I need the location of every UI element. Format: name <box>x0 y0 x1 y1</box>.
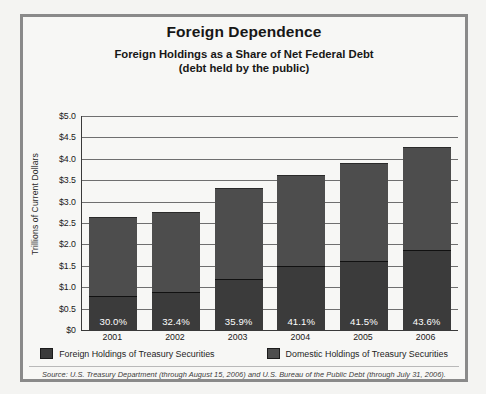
x-tick-label: 2004 <box>276 332 324 342</box>
plot-area: 30.0%32.4%35.9%41.1%41.5%43.6% <box>81 116 458 331</box>
bar-segment-foreign[interactable]: 43.6% <box>403 250 451 330</box>
y-tick-label: $2.5 <box>59 218 76 228</box>
x-tick-label: 2005 <box>339 332 387 342</box>
y-tick-label: $1.0 <box>59 282 76 292</box>
bar-column[interactable]: 41.1% <box>277 116 325 330</box>
bar-segment-foreign[interactable]: 32.4% <box>152 292 200 330</box>
bar-stack[interactable]: 43.6% <box>403 147 451 330</box>
x-tick-label: 2001 <box>88 332 136 342</box>
bar-stack[interactable]: 41.5% <box>340 163 388 330</box>
y-axis-ticks: $5.0$4.5$4.0$3.5$3.0$2.5$2.0$1.5$1.0$0.5… <box>39 83 79 303</box>
bar-segment-foreign[interactable]: 30.0% <box>89 296 137 330</box>
chart-legend: Foreign Holdings of Treasury SecuritiesD… <box>23 348 465 359</box>
bar-segment-foreign[interactable]: 41.1% <box>277 266 325 330</box>
x-tick-label: 2006 <box>402 332 450 342</box>
bar-stack[interactable]: 30.0% <box>89 217 137 330</box>
chart-page: Foreign Dependence Foreign Holdings as a… <box>0 0 486 394</box>
legend-item[interactable]: Domestic Holdings of Treasury Securities <box>267 348 448 359</box>
bar-data-label: 32.4% <box>152 316 200 327</box>
x-tick-label: 2003 <box>214 332 262 342</box>
legend-label: Foreign Holdings of Treasury Securities <box>59 349 214 359</box>
bar-segment-foreign[interactable]: 35.9% <box>215 279 263 330</box>
bar-data-label: 43.6% <box>403 316 451 327</box>
x-axis-ticks: 200120022003200420052006 <box>81 332 457 342</box>
bar-column[interactable]: 32.4% <box>152 116 200 330</box>
legend-label: Domestic Holdings of Treasury Securities <box>286 349 448 359</box>
bar-column[interactable]: 41.5% <box>340 116 388 330</box>
bar-data-label: 41.5% <box>340 316 388 327</box>
y-tick-label: $2.0 <box>59 239 76 249</box>
chart-title: Foreign Dependence <box>23 23 465 41</box>
legend-swatch <box>40 348 53 359</box>
bar-stack[interactable]: 35.9% <box>215 188 263 330</box>
legend-swatch <box>267 348 280 359</box>
bar-segment-foreign[interactable]: 41.5% <box>340 261 388 330</box>
y-tick-label: $4.5 <box>59 132 76 142</box>
bar-segment-domestic[interactable] <box>152 212 200 292</box>
chart-subtitle-line2: (debt held by the public) <box>23 61 465 75</box>
bar-data-label: 35.9% <box>215 316 263 327</box>
source-note: Source: U.S. Treasury Department (throug… <box>23 370 465 379</box>
y-tick-label: $5.0 <box>59 111 76 121</box>
y-tick-label: $3.0 <box>59 197 76 207</box>
bar-column[interactable]: 30.0% <box>89 116 137 330</box>
chart-subtitle-line1: Foreign Holdings as a Share of Net Feder… <box>23 47 465 61</box>
x-tick-label: 2002 <box>151 332 199 342</box>
bar-segment-domestic[interactable] <box>277 175 325 267</box>
bar-data-label: 41.1% <box>277 316 325 327</box>
y-tick-label: $4.0 <box>59 154 76 164</box>
bar-segment-domestic[interactable] <box>89 217 137 296</box>
chart-frame: Foreign Dependence Foreign Holdings as a… <box>20 14 468 382</box>
bar-column[interactable]: 43.6% <box>403 116 451 330</box>
legend-item[interactable]: Foreign Holdings of Treasury Securities <box>40 348 214 359</box>
chart-titles: Foreign Dependence Foreign Holdings as a… <box>23 23 465 75</box>
bar-group: 30.0%32.4%35.9%41.1%41.5%43.6% <box>82 116 458 330</box>
y-tick-label: $1.5 <box>59 261 76 271</box>
bar-segment-domestic[interactable] <box>340 163 388 261</box>
bar-column[interactable]: 35.9% <box>215 116 263 330</box>
source-divider <box>29 366 459 367</box>
y-tick-label: $0.5 <box>59 304 76 314</box>
plot-area-wrapper: Trillions of Current Dollars $5.0$4.5$4.… <box>23 83 465 329</box>
bar-segment-domestic[interactable] <box>403 147 451 250</box>
y-tick-label: $3.5 <box>59 175 76 185</box>
bar-data-label: 30.0% <box>89 316 137 327</box>
bar-stack[interactable]: 32.4% <box>152 212 200 330</box>
bar-stack[interactable]: 41.1% <box>277 175 325 330</box>
y-tick-label: $0 <box>66 325 76 335</box>
bar-segment-domestic[interactable] <box>215 188 263 279</box>
